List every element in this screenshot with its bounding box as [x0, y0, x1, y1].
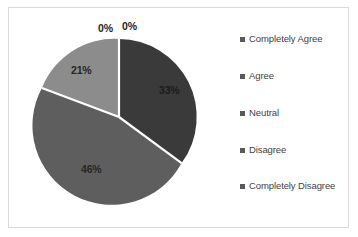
legend-item-completely-agree[interactable]: Completely Agree: [240, 33, 348, 45]
legend-item-completely-disagree[interactable]: Completely Disagree: [240, 180, 348, 192]
pie-chart-plot-area: 0% 0% 33% 21% 46%: [9, 8, 237, 227]
legend-item-label: Completely Agree: [249, 33, 322, 45]
pie-label-neutral: 21%: [71, 64, 91, 76]
legend-marker-square-icon: [240, 148, 245, 153]
legend-marker-square-icon: [240, 37, 245, 42]
legend-item-label: Agree: [249, 70, 274, 82]
legend-item-neutral[interactable]: Neutral: [240, 107, 348, 119]
legend-item-agree[interactable]: Agree: [240, 70, 348, 82]
legend-item-label: Completely Disagree: [249, 180, 335, 192]
chart-legend: Completely Agree Agree Neutral Disagree …: [237, 8, 349, 227]
pie-label-disagree: 46%: [81, 163, 101, 175]
legend-item-label: Neutral: [249, 107, 279, 119]
pie-label-agree: 33%: [159, 84, 179, 96]
legend-marker-square-icon: [240, 74, 245, 79]
legend-item-label: Disagree: [249, 144, 286, 156]
legend-marker-square-icon: [240, 111, 245, 116]
pie-label-completely-agree: 0%: [98, 22, 113, 34]
chart-frame: 0% 0% 33% 21% 46% Completely Agree Agree…: [8, 7, 349, 228]
legend-item-disagree[interactable]: Disagree: [240, 144, 348, 156]
pie-chart-svg: [19, 26, 219, 208]
pie-label-completely-disagree: 0%: [122, 20, 137, 32]
legend-marker-square-icon: [240, 184, 245, 189]
